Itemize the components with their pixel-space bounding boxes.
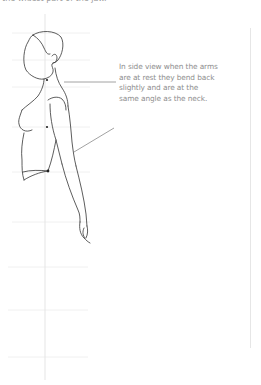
upper-arm-back	[68, 106, 76, 166]
forearm-back	[76, 166, 87, 226]
annotation-text: In side view when the arms are at rest t…	[119, 62, 219, 104]
neck-dot	[46, 79, 48, 81]
chest-dot	[46, 126, 48, 128]
figure-lines	[19, 31, 90, 243]
pointer-line-arm	[74, 128, 114, 152]
head-outline	[24, 31, 63, 79]
torso-front	[22, 133, 24, 180]
back-line	[48, 140, 56, 171]
hand	[80, 222, 90, 243]
breast	[19, 110, 32, 131]
neck-front	[22, 79, 44, 110]
upper-arm-front	[50, 104, 62, 164]
waist-dot	[47, 170, 50, 173]
figure-drawing	[0, 0, 261, 385]
shoulder	[48, 97, 66, 110]
